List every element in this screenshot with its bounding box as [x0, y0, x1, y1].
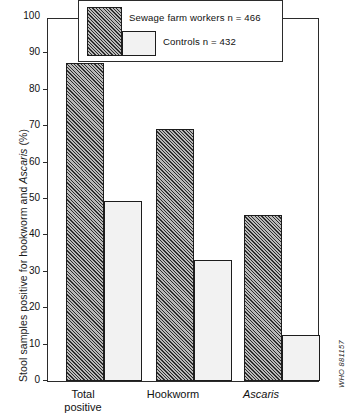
legend-label-sewage: Sewage farm workers n = 466: [129, 12, 261, 23]
y-axis-title: Stool samples positive for hookworm and …: [17, 2, 29, 382]
x-axis-label-line1: Ascaris: [227, 388, 295, 401]
y-tick-label: 60: [29, 156, 40, 167]
legend-swatch-sewage: [87, 7, 122, 56]
x-axis-label-total-positive: Total positive: [49, 388, 117, 414]
y-tick-label: 30: [29, 265, 40, 276]
x-axis-label-line1: Hookworm: [139, 388, 207, 401]
legend-swatch-controls: [122, 31, 156, 56]
y-tick-mark: [43, 162, 48, 163]
who-code-container: WHO 881157: [326, 300, 340, 390]
x-axis-label-line2: positive: [49, 401, 117, 414]
y-tick-mark: [43, 89, 48, 90]
legend-label-controls: Controls n = 432: [163, 36, 236, 47]
y-tick-mark: [43, 307, 48, 308]
y-tick-label: 0: [34, 374, 40, 385]
y-tick-mark: [43, 271, 48, 272]
y-tick-label: 50: [29, 192, 40, 203]
x-axis-label-ascaris: Ascaris: [227, 388, 295, 401]
y-tick-mark: [43, 198, 48, 199]
bar-controls-ascaris[interactable]: [282, 335, 320, 381]
y-axis-title-text-before: Stool samples positive for hookworm and: [17, 184, 29, 382]
y-tick-mark: [43, 380, 48, 381]
bar-sewage-total-positive[interactable]: [66, 63, 104, 382]
y-tick-label: 10: [29, 338, 40, 349]
x-axis-label-line1: Total: [49, 388, 117, 401]
bar-controls-hookworm[interactable]: [194, 260, 232, 381]
y-tick-label: 90: [29, 46, 40, 57]
y-tick-mark: [43, 234, 48, 235]
y-tick-label: 20: [29, 301, 40, 312]
who-code-label: WHO 881157: [337, 340, 346, 388]
y-tick-mark: [43, 125, 48, 126]
legend: Sewage farm workers n = 466 Controls n =…: [78, 0, 283, 62]
y-tick-label: 100: [23, 10, 40, 21]
y-tick-label: 70: [29, 119, 40, 130]
y-axis-title-text-after: (%): [17, 129, 29, 149]
y-tick-label: 80: [29, 83, 40, 94]
y-tick-mark: [43, 52, 48, 53]
y-tick-label: 40: [29, 228, 40, 239]
y-tick-mark: [43, 344, 48, 345]
y-axis-title-container: Stool samples positive for hookworm and …: [0, 0, 22, 390]
bar-sewage-ascaris[interactable]: [244, 215, 282, 381]
bar-controls-total-positive[interactable]: [104, 201, 142, 381]
bar-sewage-hookworm[interactable]: [156, 129, 194, 381]
y-axis-title-text-italic: Ascaris: [17, 149, 29, 184]
x-axis-label-hookworm: Hookworm: [139, 388, 207, 401]
plot-area: 0 10 20 30 40 50 60 70: [47, 18, 319, 382]
